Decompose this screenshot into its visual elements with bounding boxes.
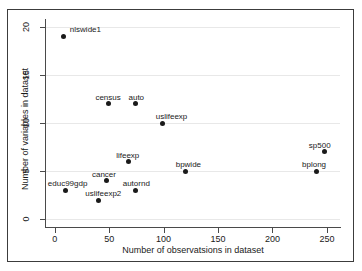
x-axis-line: [45, 227, 341, 228]
x-tick-label: 200: [255, 234, 289, 244]
data-point-label: uslifeexp: [156, 112, 188, 121]
data-point: [183, 169, 188, 174]
data-point: [106, 101, 111, 106]
x-tick-mark: [327, 228, 328, 233]
data-point-label: uslifeexp2: [85, 189, 121, 198]
x-tick-label: 150: [201, 234, 235, 244]
data-point: [133, 188, 138, 193]
x-tick-label: 50: [92, 234, 126, 244]
gridline-y: [46, 75, 340, 76]
data-point: [61, 34, 66, 39]
x-tick-label: 250: [310, 234, 344, 244]
data-point-label: autornd: [123, 179, 150, 188]
gridline-y: [46, 219, 340, 220]
data-point-label: cancer: [92, 170, 116, 179]
data-point: [96, 198, 101, 203]
data-point: [104, 178, 109, 183]
y-tick-mark: [40, 27, 45, 28]
data-point: [322, 149, 327, 154]
data-point: [126, 159, 131, 164]
data-point-label: bpwide: [176, 160, 201, 169]
y-tick-mark: [40, 75, 45, 76]
data-point-label: lifeexp: [116, 151, 139, 160]
x-tick-mark: [164, 228, 165, 233]
data-point-label: census: [95, 93, 120, 102]
data-point-label: educ99gdp: [48, 179, 88, 188]
x-tick-mark: [218, 228, 219, 233]
data-point-label: bplong: [302, 160, 326, 169]
x-tick-label: 0: [38, 234, 72, 244]
x-tick-mark: [55, 228, 56, 233]
x-tick-mark: [109, 228, 110, 233]
data-point-label: auto: [128, 93, 144, 102]
gridline-y: [46, 123, 340, 124]
data-point-label: sp500: [309, 141, 331, 150]
data-point: [160, 121, 165, 126]
data-point: [314, 169, 319, 174]
x-tick-mark: [272, 228, 273, 233]
plot-area: nlswide1censusautouslifeexpsp500lifeexpb…: [46, 19, 340, 227]
gridline-y: [46, 171, 340, 172]
y-tick-mark: [40, 219, 45, 220]
data-point-label: nlswide1: [70, 25, 101, 34]
y-tick-label: 0: [21, 208, 31, 230]
y-tick-mark: [40, 171, 45, 172]
scatter-plot-figure: nlswide1censusautouslifeexpsp500lifeexpb…: [0, 0, 362, 271]
y-axis-line: [45, 19, 46, 227]
x-tick-label: 100: [147, 234, 181, 244]
y-tick-mark: [40, 123, 45, 124]
data-point: [133, 101, 138, 106]
y-tick-label: 20: [21, 16, 31, 38]
data-point: [63, 188, 68, 193]
y-axis-title: Number of variables in dataset: [20, 68, 30, 190]
x-axis-title: Number of observatsions in dataset: [46, 245, 340, 255]
